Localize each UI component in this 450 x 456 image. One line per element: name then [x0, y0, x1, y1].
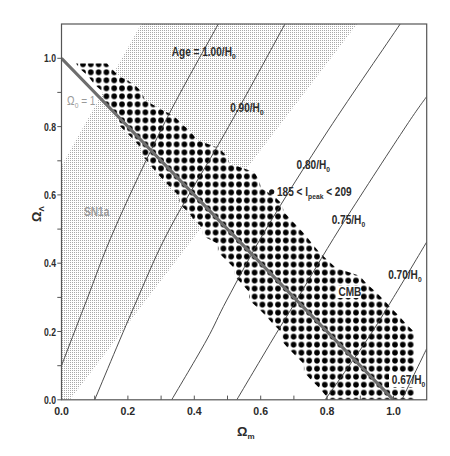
- x-tick-label: 0.8: [320, 404, 335, 416]
- y-tick-label: 0.0: [44, 394, 56, 406]
- cosmology-age-contour-chart: 0.0 0.2 0.4 0.6 0.8 1.0 0.0 0.2 0.4 0.6 …: [0, 0, 450, 456]
- y-tick-label: 1.0: [44, 52, 56, 64]
- y-tick-label: 0.2: [44, 325, 56, 337]
- label-cmb: CMB: [338, 285, 361, 298]
- x-tick-label: 0.2: [121, 404, 136, 416]
- y-tick-label: 0.6: [44, 189, 56, 201]
- x-tick-label: 0.4: [187, 404, 203, 416]
- x-tick-label: 0.0: [54, 404, 69, 416]
- y-tick-label: 0.8: [44, 120, 56, 132]
- svg-text:CMB: CMB: [338, 285, 361, 298]
- svg-text:SN1a: SN1a: [84, 206, 110, 219]
- y-tick-label: 0.4: [44, 257, 56, 269]
- x-tick-label: 1.0: [386, 404, 401, 416]
- x-tick-label: 0.6: [253, 404, 268, 416]
- label-sn1a: SN1a: [84, 206, 110, 219]
- cmb-legend-bullet-icon: [269, 189, 274, 194]
